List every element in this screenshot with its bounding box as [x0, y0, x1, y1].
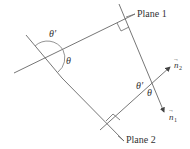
plane-1-line [14, 14, 135, 73]
theta-arc-left [58, 50, 65, 72]
n1-normal-line [119, 4, 164, 112]
plane-1-label: Plane 1 [137, 8, 167, 19]
theta-prime-left-label: θ′ [49, 28, 57, 39]
right-angle-marker-plane-2 [106, 114, 120, 121]
plane-2-pointer [118, 136, 124, 141]
n2-subscript: 2 [179, 65, 182, 71]
plane-2-crossing-line [62, 78, 124, 141]
theta-right-label: θ [147, 87, 152, 98]
angle-between-planes-diagram: Plane 1 Plane 2 θ′ θ θ′ θ → n 2 → n 1 [0, 0, 190, 149]
theta-prime-arc-left [35, 41, 63, 50]
theta-left-label: θ [66, 55, 71, 66]
theta-prime-right-label: θ′ [136, 80, 144, 91]
n1-subscript: 1 [174, 117, 177, 123]
plane-2-line [100, 67, 170, 130]
plane-2-label: Plane 2 [126, 134, 156, 145]
